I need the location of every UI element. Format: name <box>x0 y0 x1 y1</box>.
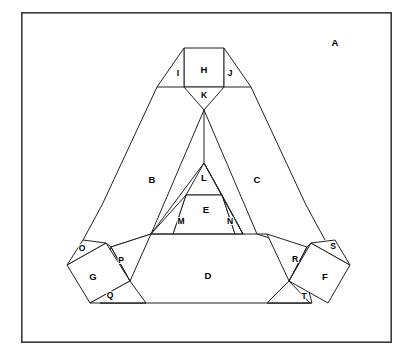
region-label-D: D <box>205 270 212 281</box>
region-label-T: T <box>301 291 307 301</box>
region-label-C: C <box>254 174 261 185</box>
region-label-Q: Q <box>107 290 114 300</box>
region-label-L: L <box>201 172 207 183</box>
region-label-J: J <box>228 68 233 78</box>
region-label-P: P <box>118 255 124 265</box>
region-label-O: O <box>79 243 86 253</box>
region-label-A: A <box>332 37 339 48</box>
geometric-diagram: A B C D E F G H I J K L M N O P Q R S T <box>0 0 401 358</box>
region-label-B: B <box>149 174 156 185</box>
region-label-N: N <box>227 216 233 226</box>
region-label-K: K <box>201 90 208 100</box>
region-label-M: M <box>177 216 184 226</box>
region-label-E: E <box>203 204 209 215</box>
region-label-G: G <box>89 271 96 282</box>
diagram-page: A B C D E F G H I J K L M N O P Q R S T <box>0 0 401 358</box>
region-label-S: S <box>330 241 336 251</box>
region-label-R: R <box>292 254 298 264</box>
region-label-I: I <box>177 68 179 78</box>
region-label-H: H <box>201 64 208 75</box>
region-label-F: F <box>322 271 328 282</box>
